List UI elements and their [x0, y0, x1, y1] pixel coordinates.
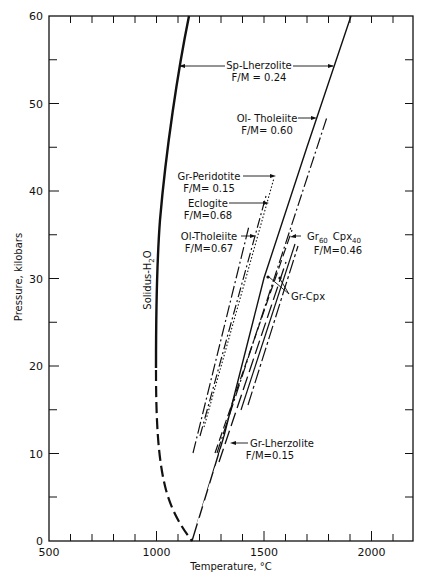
gr-lherzolite-label: Gr-Lherzolite F/M=0.15: [230, 438, 314, 461]
y-tick-label: 40: [29, 185, 43, 198]
svg-text:Gr60Cpx40: Gr60Cpx40: [307, 231, 361, 245]
svg-text:F/M= 0.15: F/M= 0.15: [183, 183, 235, 194]
pressure-temperature-chart: 500 1000 1500 2000 0 10 20 30 40 50 60 T…: [0, 0, 426, 576]
svg-text:Gr-Peridotite: Gr-Peridotite: [178, 171, 241, 182]
gr-peridotite-label: Gr-Peridotite F/M= 0.15: [178, 171, 276, 194]
x-tick-label: 2000: [358, 546, 386, 559]
gr-cpx-line-b: [248, 246, 298, 405]
y-tick-label: 30: [29, 273, 43, 286]
svg-text:F/M=0.68: F/M=0.68: [184, 210, 232, 221]
y-tick-label: 60: [29, 10, 43, 23]
y-ticks: [49, 60, 413, 497]
gr60-cpx40-label: Gr60Cpx40 F/M=0.46: [290, 231, 362, 256]
y-tick-label: 0: [36, 535, 43, 548]
svg-text:Eclogite: Eclogite: [188, 198, 228, 209]
eclogite-label: Eclogite F/M=0.68: [184, 198, 269, 221]
svg-text:Gr-Lherzolite: Gr-Lherzolite: [250, 438, 314, 449]
x-tick-label: 1000: [143, 546, 171, 559]
svg-text:Ol-Tholeiite: Ol-Tholeiite: [181, 231, 237, 242]
sp-lherzolite-label: Sp-Lherzolite F/M = 0.24: [179, 60, 334, 83]
sp-lherzolite-line: [192, 16, 351, 541]
svg-text:F/M= 0.60: F/M= 0.60: [241, 125, 293, 136]
x-ticks: [71, 16, 394, 541]
y-axis-title: Pressure, kilobars: [13, 233, 24, 321]
ol-tholeiite-060-label: Ol- Tholeiite F/M= 0.60: [237, 113, 317, 136]
svg-text:F/M=0.46: F/M=0.46: [314, 245, 362, 256]
x-tick-label: 1500: [250, 546, 278, 559]
svg-text:Sp-Lherzolite: Sp-Lherzolite: [226, 60, 291, 71]
y-tick-label: 20: [29, 360, 43, 373]
y-tick-label: 10: [29, 448, 43, 461]
solidus-h2o-label: Solidus-H2O: [142, 250, 156, 310]
svg-text:F/M=0.67: F/M=0.67: [185, 243, 233, 254]
svg-text:Gr-Cpx: Gr-Cpx: [291, 291, 325, 302]
sp-lherzolite-gap: [194, 436, 226, 535]
ol-tholeiite-060-line: [217, 117, 327, 453]
svg-text:Ol- Tholeiite: Ol- Tholeiite: [237, 113, 298, 124]
solidus-h2o-curve-dashed: [156, 370, 192, 541]
svg-text:F/M=0.15: F/M=0.15: [246, 450, 294, 461]
x-axis-title: Temperature, °C: [189, 561, 272, 572]
ol-tholeiite-067-line: [193, 226, 249, 453]
y-tick-label: 50: [29, 98, 43, 111]
svg-text:F/M = 0.24: F/M = 0.24: [232, 72, 287, 83]
gr-lherzolite-line: [219, 262, 286, 462]
gr-cpx-line-a: [241, 244, 295, 410]
plot-frame: [49, 16, 413, 541]
